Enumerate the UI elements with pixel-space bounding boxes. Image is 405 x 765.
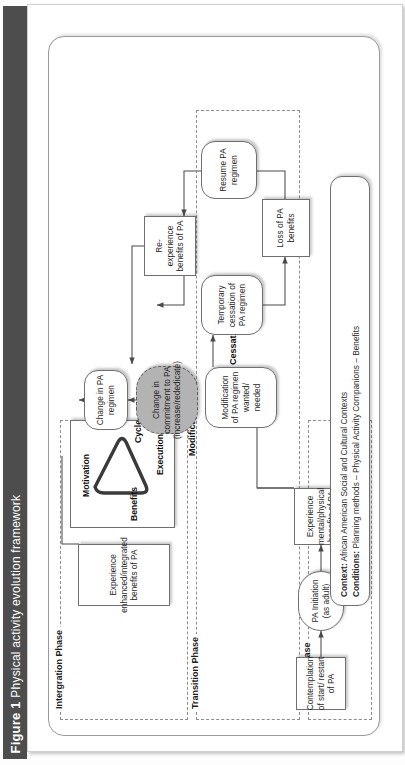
node-modification-wanted: Modification of PA regimen wanted/ neede…	[205, 367, 277, 428]
flowchart-canvas: Intergration Phase Experience enhanced/i…	[32, 8, 400, 756]
context-label: Context:	[339, 563, 349, 597]
node-contemplation: Contemplation of start/ restart of PA	[296, 657, 346, 710]
figure-root: Figure 1 Physical activity evolution fra…	[0, 0, 405, 765]
conditions-value: Planning methods – Physical Activity Com…	[351, 326, 361, 551]
context-conditions-panel: Context: African American Social and Cul…	[330, 176, 370, 606]
phase-integration-label: Intergration Phase	[54, 627, 64, 712]
figure-number: Figure 1	[8, 701, 23, 753]
context-value: African American Social and Cultural Con…	[339, 392, 349, 564]
conditions-line: Conditions: Planning methods – Physical …	[350, 185, 362, 597]
figure-title: Physical activity evolution framework	[9, 494, 23, 697]
diagram-area: Intergration Phase Experience enhanced/i…	[32, 8, 400, 756]
figure-caption-text: Figure 1 Physical activity evolution fra…	[8, 6, 23, 759]
figure-caption-bar: Figure 1 Physical activity evolution fra…	[3, 6, 27, 759]
node-temporary-cessation: Temporary cessation of PA regimen	[201, 275, 263, 335]
conditions-label: Conditions:	[351, 551, 361, 597]
node-experience-enhanced: Experience enhanced/integrated benefits …	[78, 544, 170, 606]
cycle-label-benefits: Benefits	[129, 487, 139, 521]
node-loss-benefits: Loss of PA benefits	[262, 199, 310, 257]
phase-transition-label: Transition Phase	[190, 634, 200, 712]
cycle-label-execution: Execution	[155, 434, 165, 475]
node-reexperience-benefits: Re-experience benefits of PA	[144, 216, 196, 276]
node-resume-regimen: Resume PA regimen	[201, 141, 257, 199]
node-change-commitment: Change in commitment to PA (increase/red…	[136, 366, 198, 434]
context-line: Context: African American Social and Cul…	[338, 185, 350, 597]
cycle-label-motivation: Motivation	[81, 454, 91, 497]
node-change-pa-regimen: Change in PA regimen	[84, 370, 128, 430]
